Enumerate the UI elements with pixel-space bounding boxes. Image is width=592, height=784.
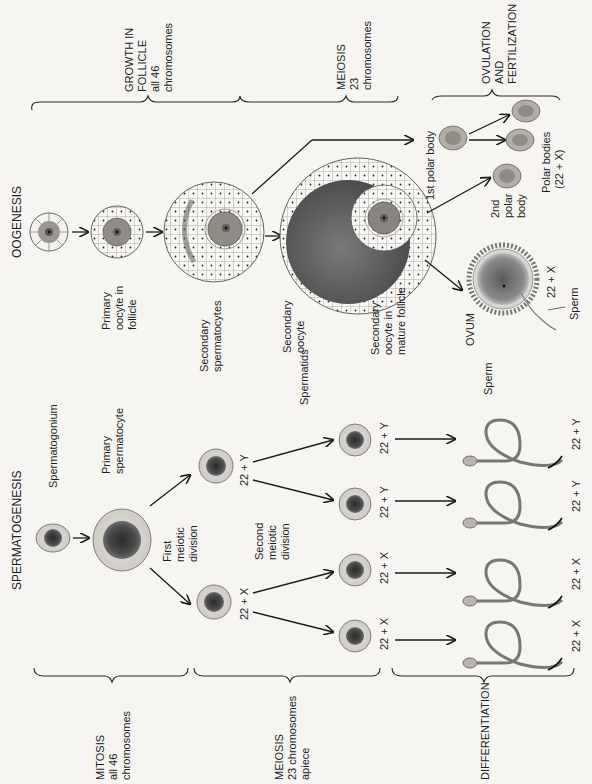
svg-text:apiece: apiece xyxy=(299,748,311,780)
oogenesis-title: OOGENESIS xyxy=(10,186,24,258)
sperm-3 xyxy=(463,482,562,530)
gametogenesis-figure: OOGENESIS GROWTH IN FOLLICLE all 46 chro… xyxy=(0,0,592,784)
svg-text:follicle: follicle xyxy=(126,299,138,330)
svg-text:division: division xyxy=(187,525,199,562)
karyotype-secondary-x: 22 + X xyxy=(238,587,250,620)
stage-growth-label: GROWTH IN xyxy=(123,28,135,92)
svg-text:oocyte: oocyte xyxy=(294,321,306,353)
karyotype-spermatid-4: 22 + Y xyxy=(378,421,390,454)
svg-text:all 46: all 46 xyxy=(149,66,161,92)
svg-text:body: body xyxy=(515,194,527,218)
primary-oocyte-follicle xyxy=(91,206,143,258)
svg-text:spermatocytes: spermatocytes xyxy=(211,300,223,372)
spermatid-2 xyxy=(339,554,371,586)
label-ovum-sperm: Sperm xyxy=(568,288,580,320)
svg-text:chromosomes: chromosomes xyxy=(162,22,174,92)
svg-text:AND: AND xyxy=(493,61,505,84)
ovum xyxy=(469,245,556,330)
brace-meiosis-sp xyxy=(194,668,380,682)
label-primary-oocyte: Primary xyxy=(100,292,112,330)
label-primary-spermatocyte: Primary xyxy=(100,436,112,474)
karyotype-spermatid-2: 22 + X xyxy=(378,551,390,584)
stage-meiosis-sp-label: MEIOSIS xyxy=(273,734,285,780)
svg-text:meiotic: meiotic xyxy=(266,525,278,560)
primary-spermatocyte xyxy=(93,509,151,571)
label-ovum: OVUM xyxy=(464,313,476,346)
label-spermatogonium: Spermatogonium xyxy=(47,404,59,488)
diagram-svg: OOGENESIS GROWTH IN FOLLICLE all 46 chro… xyxy=(0,0,592,784)
karyotype-secondary-y: 22 + Y xyxy=(238,453,250,486)
stage-differentiation-label: DIFFERENTIATION xyxy=(479,682,491,780)
brace-mitosis xyxy=(34,668,188,682)
first-polar-body xyxy=(439,126,467,150)
spermatid-4 xyxy=(339,424,371,456)
stage-ovulation-label: OVULATION xyxy=(480,21,492,84)
label-first-meiotic: First xyxy=(161,541,173,562)
karyotype-spermatid-1: 22 + X xyxy=(378,617,390,650)
sperm-4 xyxy=(463,420,562,468)
svg-text:FOLLICLE: FOLLICLE xyxy=(136,40,148,92)
label-sperm: Sperm xyxy=(482,363,494,395)
stage-meiosis-oo-label: MEIOSIS xyxy=(335,44,347,90)
svg-text:chromosomes: chromosomes xyxy=(361,20,373,90)
second-polar-body xyxy=(493,164,521,188)
label-secondary-oocyte-mature: Secondary xyxy=(369,302,381,355)
spermatogenesis-section: SPERMATOGENESIS Spermatogonium Primary s… xyxy=(10,300,582,780)
polar-body-a xyxy=(512,100,540,122)
svg-text:23 chromosomes: 23 chromosomes xyxy=(286,695,298,780)
label-polar-bodies: Polar bodies xyxy=(540,131,552,193)
sperm-2 xyxy=(463,560,562,608)
karyotype-spermatid-3: 22 + Y xyxy=(378,485,390,518)
primordial-follicle xyxy=(30,213,68,251)
spermatogenesis-title: SPERMATOGENESIS xyxy=(10,470,24,590)
sperm-1 xyxy=(463,622,562,670)
karyotype-sperm-1: 22 + X xyxy=(570,619,582,652)
svg-text:(22 + X): (22 + X) xyxy=(553,150,565,189)
svg-text:FERTILIZATION: FERTILIZATION xyxy=(506,4,518,84)
label-first-polar-body: 1st polar body xyxy=(424,130,436,200)
karyotype-sperm-4: 22 + Y xyxy=(570,417,582,450)
polar-body-b xyxy=(506,129,534,151)
label-second-polar-body: 2nd xyxy=(489,200,501,218)
secondary-spermatocyte-x xyxy=(197,585,231,619)
svg-text:division: division xyxy=(279,523,291,560)
brace-differentiation xyxy=(392,668,574,682)
karyotype-sperm-2: 22 + X xyxy=(570,557,582,590)
spermatid-1 xyxy=(339,620,371,652)
karyotype-sperm-3: 22 + Y xyxy=(570,479,582,512)
svg-text:all 46: all 46 xyxy=(107,754,119,780)
spermatid-3 xyxy=(339,488,371,520)
growing-follicle xyxy=(164,182,264,282)
label-secondary-spermatocytes: Secondary xyxy=(198,319,210,372)
brace-meiosis-oo xyxy=(240,96,398,102)
svg-text:23: 23 xyxy=(348,78,360,90)
svg-text:polar: polar xyxy=(502,193,514,218)
label-secondary-oocyte: Secondary xyxy=(281,300,293,353)
oogenesis-section: OOGENESIS GROWTH IN FOLLICLE all 46 chro… xyxy=(10,4,580,355)
svg-text:oocyte in: oocyte in xyxy=(113,286,125,330)
svg-text:spermatocyte: spermatocyte xyxy=(113,408,125,474)
spermatogonium xyxy=(36,524,70,552)
svg-text:meiotic: meiotic xyxy=(174,527,186,562)
label-spermatids: Spermatids xyxy=(298,349,310,405)
stage-mitosis-label: MITOSIS xyxy=(94,735,106,780)
label-ovum-karyotype: 22 + X xyxy=(545,265,557,298)
svg-text:oocyte in: oocyte in xyxy=(382,311,394,355)
secondary-spermatocyte-y xyxy=(199,449,233,483)
svg-text:mature follicle: mature follicle xyxy=(395,287,407,355)
brace-ovulation xyxy=(432,90,560,100)
svg-text:chromosomes: chromosomes xyxy=(120,710,132,780)
mature-follicle xyxy=(280,158,436,314)
label-second-meiotic: Second xyxy=(253,523,265,560)
brace-growth xyxy=(32,96,240,110)
